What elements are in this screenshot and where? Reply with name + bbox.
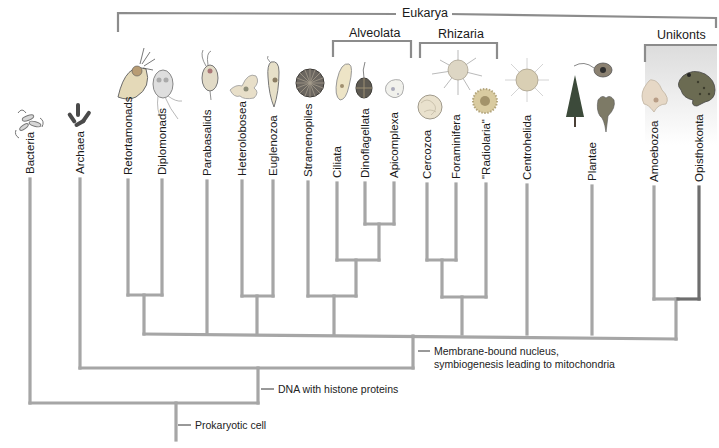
- cercozoa-illustration: [418, 95, 442, 119]
- taxon-plantae: Plantae: [586, 142, 598, 181]
- radiolaria-illustration: [473, 89, 497, 113]
- eukarya-node-annotation: Membrane-bound nucleus, symbiogenesis le…: [434, 345, 615, 371]
- taxon-parabasalids: Parabasalids: [201, 110, 213, 176]
- eukarya-node-line2: symbiogenesis leading to mitochondria: [434, 358, 615, 371]
- rhizaria-label: Rhizaria: [434, 27, 488, 41]
- taxon-archaea: Archaea: [74, 131, 86, 174]
- taxon-bacteria: Bacteria: [24, 132, 36, 174]
- euglenozoa-illustration: [267, 56, 279, 107]
- stramenopiles-illustration: [296, 69, 324, 97]
- ciliata-illustration: [336, 64, 352, 100]
- taxon-centrohelida: Centrohelida: [521, 115, 533, 180]
- taxon-diplomonads: Diplomonads: [156, 108, 168, 175]
- taxon-cercozoa: Cercozoa: [421, 130, 433, 179]
- taxon-retortamonads: Retortamonads: [122, 96, 134, 175]
- taxon-dinoflagellata: Dinoflagellata: [359, 108, 371, 178]
- taxon-amoebozoa: Amoebozoa: [648, 121, 660, 182]
- plantae-illustration: [566, 63, 614, 132]
- taxon-euglenozoa: Euglenozoa: [267, 115, 279, 176]
- alveolata-label: Alveolata: [345, 26, 404, 40]
- histone-node-annotation: DNA with histone proteins: [278, 383, 398, 396]
- taxon-radiolaria: "Radiolaria": [480, 119, 492, 179]
- foraminifera-illustration: [432, 50, 482, 95]
- taxon-opisthokonta: Opisthokonta: [693, 114, 705, 182]
- centrohelida-illustration: [505, 58, 549, 102]
- unikonts-label: Unikonts: [653, 28, 710, 42]
- heterolobosea-illustration: [230, 75, 258, 99]
- taxon-apicomplexa: Apicomplexa: [388, 112, 400, 178]
- phylogenetic-tree: Eukarya Alveolata Rhizaria Unikonts Bact…: [0, 0, 719, 448]
- root-node-annotation: Prokaryotic cell: [195, 419, 266, 432]
- tree-branches: [0, 0, 719, 448]
- dinoflagellata-illustration: [356, 62, 372, 98]
- taxon-foraminifera: Foraminifera: [450, 114, 462, 179]
- opisthokonta-branch: [678, 187, 699, 299]
- taxon-ciliata: Ciliata: [331, 146, 343, 178]
- eukarya-label: Eukarya: [398, 6, 452, 20]
- parabasalids-illustration: [202, 50, 218, 100]
- retortamonads-illustration: [118, 48, 155, 99]
- apicomplexa-illustration: [386, 80, 404, 98]
- taxon-heterolobosea: Heterolobosea: [236, 101, 248, 176]
- archaea-illustration: [67, 103, 92, 128]
- eukarya-node-line1: Membrane-bound nucleus,: [434, 345, 615, 358]
- taxon-stramenopiles: Stramenopiles: [302, 103, 314, 177]
